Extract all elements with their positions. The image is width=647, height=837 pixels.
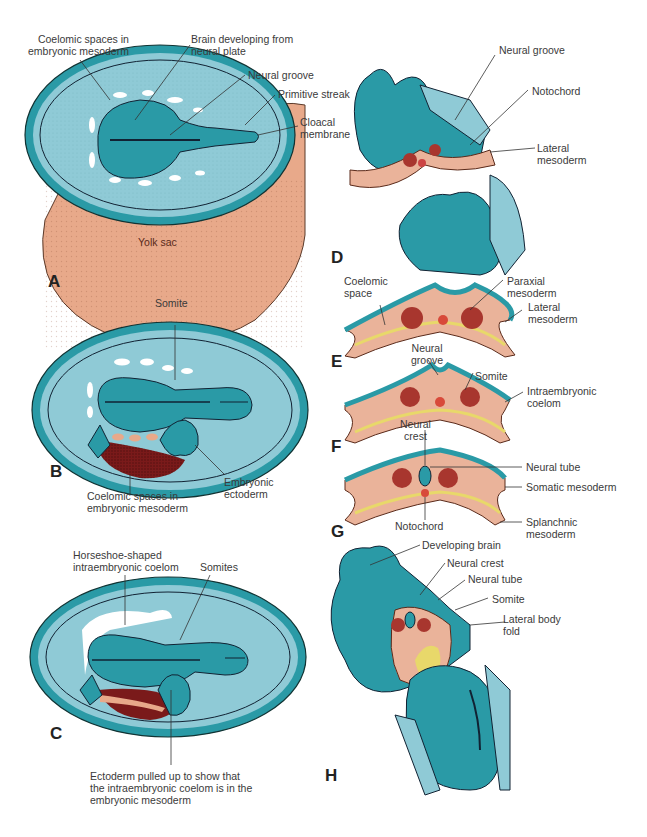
label-g-notochord: Notochord xyxy=(395,520,443,532)
label-b-coelomic-spaces: Coelomic spaces in embryonic mesoderm xyxy=(87,490,188,514)
label-g-neural-crest: Neural crest xyxy=(400,418,431,442)
label-e-lateral-mesoderm: Lateral mesoderm xyxy=(528,301,578,325)
label-d-notochord: Notochord xyxy=(532,85,580,97)
label-f-somite: Somite xyxy=(475,370,508,382)
label-c-somites: Somites xyxy=(200,561,238,573)
label-g-somatic-mesoderm: Somatic mesoderm xyxy=(526,481,616,493)
label-f-neural-groove: Neural groove xyxy=(411,342,443,366)
panel-b-illustration xyxy=(32,322,308,498)
label-h-neural-tube: Neural tube xyxy=(468,573,522,585)
label-c-horseshoe: Horseshoe-shaped intraembryonic coelom xyxy=(73,549,179,573)
label-b-embryonic-ectoderm: Embryonic ectoderm xyxy=(224,476,274,500)
label-e-paraxial-mesoderm: Paraxial mesoderm xyxy=(507,275,557,299)
panel-letter-h: H xyxy=(325,766,337,786)
label-h-developing-brain: Developing brain xyxy=(422,539,501,551)
label-c-ectoderm-pulled: Ectoderm pulled up to show that the intr… xyxy=(90,770,252,806)
panel-letter-a: A xyxy=(48,272,60,292)
panel-letter-c: C xyxy=(50,724,62,744)
label-e-coelomic-space: Coelomic space xyxy=(344,275,388,299)
label-a-neural-groove: Neural groove xyxy=(248,69,314,81)
label-h-lateral-body-fold: Lateral body fold xyxy=(503,613,561,637)
label-a-primitive-streak: Primitive streak xyxy=(278,88,350,100)
label-g-splanchnic-mesoderm: Splanchnic mesoderm xyxy=(526,516,577,540)
label-a-coelomic-spaces: Coelomic spaces in embryonic mesoderm xyxy=(28,33,129,57)
panel-letter-g: G xyxy=(331,522,344,542)
label-f-intraembryonic-coelom: Intraembryonic coelom xyxy=(527,385,596,409)
panel-c-illustration xyxy=(30,577,306,737)
label-d-lateral-mesoderm: Lateral mesoderm xyxy=(537,142,587,166)
label-d-neural-groove: Neural groove xyxy=(499,44,565,56)
label-b-somite: Somite xyxy=(155,297,188,309)
label-h-neural-crest: Neural crest xyxy=(447,557,504,569)
panel-letter-d: D xyxy=(331,248,343,268)
panel-d-illustration xyxy=(350,69,525,275)
label-g-neural-tube: Neural tube xyxy=(526,461,580,473)
label-a-brain: Brain developing from neural plate xyxy=(191,33,293,57)
label-a-cloacal-membrane: Cloacal membrane xyxy=(300,116,350,140)
panel-letter-b: B xyxy=(50,462,62,482)
panel-letter-f: F xyxy=(331,437,341,457)
label-h-somite: Somite xyxy=(492,593,525,605)
label-a-yolk-sac: Yolk sac xyxy=(138,236,177,248)
panel-letter-e: E xyxy=(331,352,342,372)
